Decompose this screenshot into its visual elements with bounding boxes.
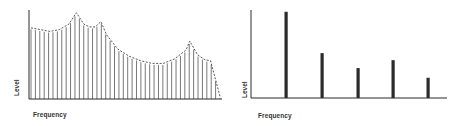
continuous-spectrum-panel: Level Frequency [0, 0, 231, 126]
left-y-axis-label: Level [13, 79, 20, 96]
right-x-axis-label: Frequency [258, 112, 292, 119]
spectrum-bar-1 [285, 12, 288, 98]
line-spectrum-plot [231, 0, 462, 126]
spectrum-bar-4 [392, 60, 395, 98]
line-spectrum-panel: Level Frequency [231, 0, 462, 126]
spectrum-bar-2 [321, 53, 324, 98]
spectrum-bar-3 [357, 68, 360, 98]
left-x-axis-label: Frequency [33, 111, 67, 118]
spectrum-bar-5 [427, 78, 430, 98]
right-y-axis-label: Level [241, 81, 248, 98]
continuous-spectrum-plot [0, 0, 231, 126]
envelope-curve [31, 13, 220, 97]
